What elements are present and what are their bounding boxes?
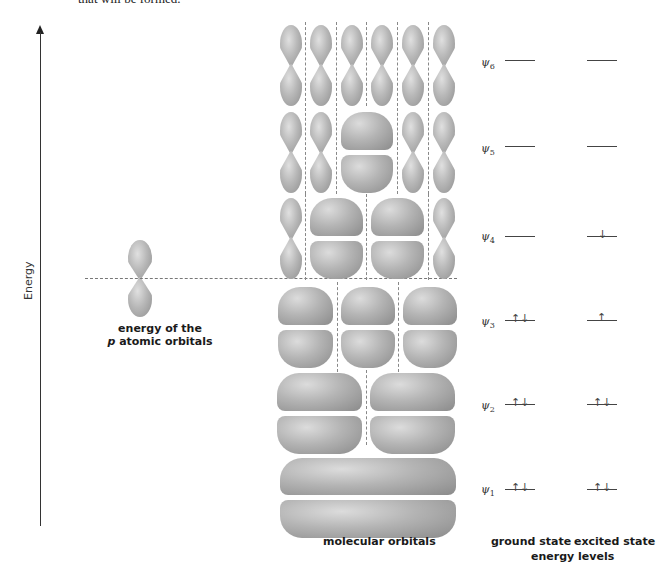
ground-state-caption: ground state (491, 535, 571, 548)
ground-level-psi4 (505, 236, 535, 237)
node-plane (428, 22, 429, 106)
ground-electrons-psi1: ↑↓ (511, 482, 529, 493)
psi1-label: ψ1 (481, 483, 495, 498)
node-plane (366, 22, 367, 106)
excited-electrons-psi2: ↑↓ (593, 397, 611, 408)
excited-state-caption: excited state (574, 535, 655, 548)
energy-levels-caption: energy levels (531, 550, 614, 563)
energy-axis (40, 32, 41, 526)
p-orbital-label: energy of the p atomic orbitals (100, 322, 220, 348)
psi5-label: ψ5 (481, 142, 495, 157)
cut-off-heading: that will be formed. (78, 0, 181, 7)
molecular-orbitals-caption: molecular orbitals (323, 535, 436, 548)
excited-electrons-psi1: ↑↓ (593, 482, 611, 493)
node-plane (397, 22, 398, 106)
node-plane (428, 108, 429, 194)
node-plane (398, 282, 399, 372)
node-plane (305, 108, 306, 194)
psi2-label: ψ2 (481, 399, 495, 414)
psi3-label: ψ3 (481, 315, 495, 330)
node-plane (336, 108, 337, 194)
ground-electrons-psi2: ↑↓ (511, 397, 529, 408)
energy-axis-label: Energy (22, 261, 35, 300)
excited-electron-psi3: ↑ (597, 312, 606, 323)
psi6-label: ψ6 (481, 56, 495, 71)
node-plane (305, 194, 306, 280)
node-plane (366, 370, 367, 445)
node-plane (305, 22, 306, 106)
node-plane (337, 282, 338, 372)
node-plane (397, 108, 398, 194)
psi4-label: ψ4 (481, 230, 495, 245)
ground-level-psi5 (505, 146, 535, 147)
node-plane (366, 194, 367, 280)
excited-level-psi5 (587, 146, 617, 147)
excited-level-psi6 (587, 60, 617, 61)
ground-electrons-psi3: ↑↓ (511, 313, 529, 324)
node-plane (336, 22, 337, 106)
excited-electron-psi4: ↓ (598, 229, 607, 240)
node-plane (428, 194, 429, 280)
ground-level-psi6 (505, 60, 535, 61)
